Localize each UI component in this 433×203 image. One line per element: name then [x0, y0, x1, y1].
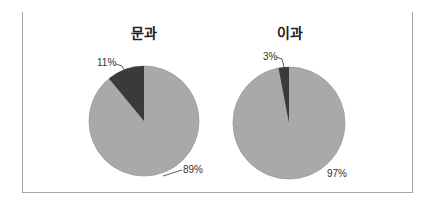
- slice-label-large: 89%: [183, 164, 203, 175]
- pie-charts: 문과 11% 89% 이과 3% 97%: [0, 0, 433, 203]
- chart-title: 문과: [131, 25, 157, 41]
- chart-title: 이과: [277, 25, 303, 41]
- slice-label-small: 3%: [263, 51, 278, 62]
- slice-label-small: 11%: [97, 57, 116, 68]
- pie-chart-sciences: 이과 3% 97%: [233, 25, 347, 179]
- slice-label-large: 97%: [327, 168, 347, 179]
- pie-chart-humanities: 문과 11% 89%: [89, 25, 203, 176]
